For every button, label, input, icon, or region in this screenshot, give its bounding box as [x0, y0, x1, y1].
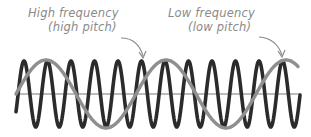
frequency-diagram [0, 0, 311, 137]
